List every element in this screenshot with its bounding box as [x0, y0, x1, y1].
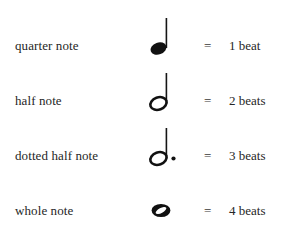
quarter-note-head	[149, 40, 168, 57]
note-name-label: quarter note	[15, 38, 79, 54]
equals-sign: =	[204, 203, 211, 219]
beat-value-label: 4 beats	[229, 203, 265, 219]
note-name-label: dotted half note	[15, 148, 98, 164]
table-row: dotted half note = 3 beats	[0, 128, 292, 183]
whole-note-head	[152, 204, 171, 217]
table-row: quarter note = 1 beat	[0, 18, 292, 73]
equals-sign: =	[204, 38, 211, 54]
table-row: whole note = 4 beats	[0, 183, 292, 238]
augmentation-dot	[171, 156, 175, 160]
quarter-note-glyph	[140, 18, 202, 73]
table-row: half note = 2 beats	[0, 73, 292, 128]
note-name-label: whole note	[15, 203, 73, 219]
half-note-head	[149, 95, 169, 112]
beat-value-label: 3 beats	[229, 148, 265, 164]
note-name-label: half note	[15, 93, 62, 109]
whole-note-glyph	[140, 183, 202, 238]
dotted-half-note-glyph	[140, 128, 202, 183]
dotted-half-note-head	[149, 150, 169, 167]
beat-value-label: 1 beat	[229, 38, 260, 54]
beat-value-label: 2 beats	[229, 93, 265, 109]
half-note-glyph	[140, 73, 202, 128]
equals-sign: =	[204, 148, 211, 164]
quarter-note-stem	[166, 18, 168, 48]
note-value-chart: quarter note = 1 beat half note	[0, 0, 292, 240]
equals-sign: =	[204, 93, 211, 109]
